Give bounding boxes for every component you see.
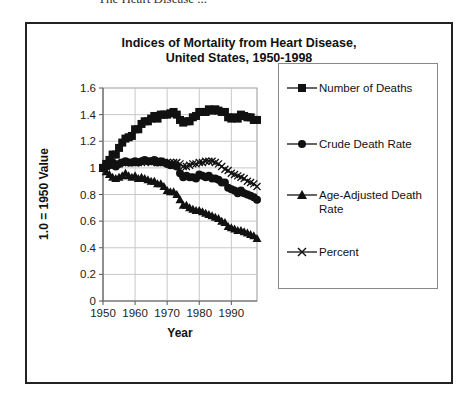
data-point [253,116,261,124]
y-tick-label: 1.6 [80,82,96,94]
legend-triangle-marker-icon [287,188,317,202]
y-tick-label: 1.4 [80,109,97,121]
legend-x-marker-icon [287,245,317,259]
legend-label: Number of Deaths [319,81,431,95]
y-tick-label: 0.4 [80,242,97,254]
x-tick-label: 1960 [122,307,148,319]
legend-item-age-adjusted-death-rate: Age-Adjusted Death Rate [287,188,431,216]
legend-label: Crude Death Rate [319,137,431,151]
y-tick-label: 1.2 [80,135,96,147]
legend-item-crude-death-rate: Crude Death Rate [287,137,431,151]
legend-label: Age-Adjusted Death Rate [319,188,431,216]
y-tick-label: 1 [90,162,96,174]
x-tick-label: 1990 [219,307,245,319]
legend-label: Percent [319,245,431,259]
y-axis-label: 1.0 = 1950 Value [37,148,51,240]
x-axis-label: Year [167,326,193,340]
legend-item-percent: Percent [287,245,431,259]
x-tick-label: 1980 [186,307,212,319]
x-tick-label: 1950 [90,307,116,319]
y-tick-label: 0.2 [80,268,96,280]
legend: Number of Deaths Crude Death Rate Age-Ad… [278,63,438,289]
y-tick-label: 0.8 [80,189,96,201]
legend-circle-marker-icon [287,137,317,151]
y-tick-label: 0 [90,295,96,307]
data-point [253,196,261,204]
y-tick-label: 0.6 [80,215,96,227]
x-tick-label: 1970 [154,307,180,319]
legend-item-number-of-deaths: Number of Deaths [287,81,431,95]
legend-square-marker-icon [287,81,317,95]
